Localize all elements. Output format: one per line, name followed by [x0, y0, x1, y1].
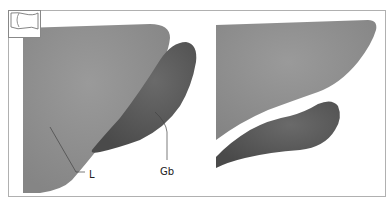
label-L: L — [89, 169, 95, 180]
left-panel: L Gb — [9, 11, 197, 194]
right-panel — [216, 20, 376, 168]
organ-outline-icon — [9, 11, 41, 38]
label-Gb: Gb — [160, 166, 174, 177]
diagram-canvas: L Gb — [0, 0, 391, 203]
